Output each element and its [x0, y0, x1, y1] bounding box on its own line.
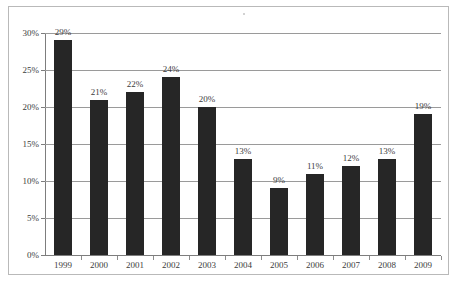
x-axis-tick-label-2005: 2005	[262, 261, 296, 270]
bar-value-label-2004: 13%	[226, 147, 260, 156]
bar-value-label-2007: 12%	[334, 154, 368, 163]
y-axis-tick-label: 30%	[9, 29, 39, 38]
x-tick-mark	[225, 256, 226, 260]
bar-value-label-2001: 22%	[118, 80, 152, 89]
x-axis-tick-label-2008: 2008	[370, 261, 404, 270]
bar-value-label-1999: 29%	[46, 28, 80, 37]
bar-2007	[342, 166, 360, 255]
y-axis-tick-label: 15%	[9, 140, 39, 149]
x-axis-tick-label-2009: 2009	[406, 261, 440, 270]
bar-value-label-2005: 9%	[262, 176, 296, 185]
x-tick-mark	[261, 256, 262, 260]
x-axis-tick-label-1999: 1999	[46, 261, 80, 270]
bar-value-label-2003: 20%	[190, 95, 224, 104]
x-tick-mark	[189, 256, 190, 260]
bar-2004	[234, 159, 252, 255]
gridline-30pct	[45, 33, 441, 34]
x-tick-mark	[441, 256, 442, 260]
x-tick-mark	[117, 256, 118, 260]
bar-value-label-2009: 19%	[406, 102, 440, 111]
y-axis-tick-label: 0%	[9, 251, 39, 260]
x-axis-tick-label-2000: 2000	[82, 261, 116, 270]
bar-2000	[90, 100, 108, 255]
gridline-25pct	[45, 70, 441, 71]
image-artifact-speck	[243, 13, 245, 15]
x-tick-mark	[405, 256, 406, 260]
bar-1999	[54, 40, 72, 255]
bar-value-label-2000: 21%	[82, 88, 116, 97]
x-tick-mark	[333, 256, 334, 260]
plot-area	[45, 33, 441, 255]
bar-2005	[270, 188, 288, 255]
y-axis-tick-label: 5%	[9, 214, 39, 223]
gridline-0pct	[45, 255, 441, 256]
chart-figure-frame: 0%5%10%15%20%25%30% 29%21%22%24%20%13%9%…	[8, 6, 449, 275]
bar-2002	[162, 77, 180, 255]
x-axis-tick-label-2001: 2001	[118, 261, 152, 270]
y-axis-tick-label: 20%	[9, 103, 39, 112]
bar-value-label-2006: 11%	[298, 162, 332, 171]
y-axis-tick-label: 25%	[9, 66, 39, 75]
bar-value-label-2008: 13%	[370, 147, 404, 156]
bar-chart: 0%5%10%15%20%25%30% 29%21%22%24%20%13%9%…	[9, 7, 450, 276]
bar-value-label-2002: 24%	[154, 65, 188, 74]
bar-2009	[414, 114, 432, 255]
bar-2003	[198, 107, 216, 255]
x-tick-mark	[81, 256, 82, 260]
x-axis-tick-label-2003: 2003	[190, 261, 224, 270]
bar-2008	[378, 159, 396, 255]
x-axis-tick-label-2007: 2007	[334, 261, 368, 270]
bar-2006	[306, 174, 324, 255]
x-axis-tick-label-2004: 2004	[226, 261, 260, 270]
bar-2001	[126, 92, 144, 255]
x-tick-mark	[153, 256, 154, 260]
x-tick-mark	[297, 256, 298, 260]
y-axis-tick-label: 10%	[9, 177, 39, 186]
x-axis-tick-label-2006: 2006	[298, 261, 332, 270]
x-tick-mark	[369, 256, 370, 260]
x-axis-tick-label-2002: 2002	[154, 261, 188, 270]
